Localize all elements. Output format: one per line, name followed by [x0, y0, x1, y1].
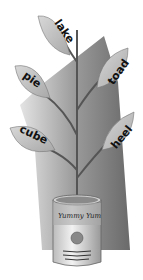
can-label: Yummy Yum — [58, 212, 101, 220]
leaf-pie: pie — [15, 66, 50, 98]
leaf-lake: lake — [38, 16, 77, 55]
can: Yummy Yum — [53, 195, 101, 266]
plant-illustration: lake pie toad cube heel Yummy Yum — [0, 0, 143, 280]
